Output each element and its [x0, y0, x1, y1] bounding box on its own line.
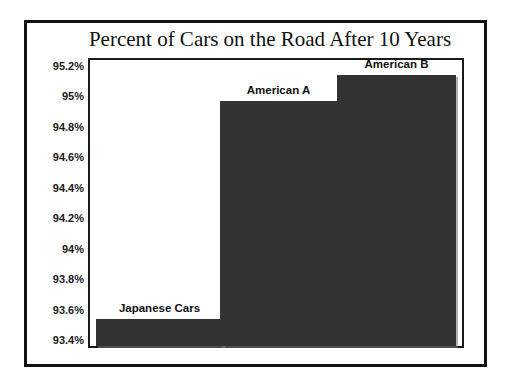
- y-axis-tick-label: 94%: [24, 243, 84, 255]
- bar-label-american-a: American A: [247, 84, 311, 96]
- bar-american-b[interactable]: [337, 75, 456, 346]
- y-axis-tick-label: 95%: [24, 90, 84, 102]
- chart-figure: Percent of Cars on the Road After 10 Yea…: [0, 0, 510, 380]
- bar-label-american-b: American B: [365, 58, 429, 70]
- y-axis-tick-label: 95.2%: [24, 60, 84, 72]
- y-axis-tick-label: 93.4%: [24, 334, 84, 346]
- chart-title: Percent of Cars on the Road After 10 Yea…: [60, 24, 480, 54]
- y-axis-tick-label: 93.8%: [24, 273, 84, 285]
- bar-label-japanese-cars: Japanese Cars: [119, 302, 200, 314]
- y-axis-tick-label: 94.6%: [24, 151, 84, 163]
- y-axis: 95.2%95%94.8%94.6%94.4%94.2%94%93.8%93.6…: [22, 58, 84, 348]
- bar-japanese-cars[interactable]: [96, 319, 223, 346]
- y-axis-tick-label: 94.4%: [24, 182, 84, 194]
- y-axis-tick-label: 93.6%: [24, 304, 84, 316]
- y-axis-tick-label: 94.8%: [24, 121, 84, 133]
- bars-layer: Japanese CarsAmerican AAmerican B: [88, 58, 464, 348]
- bar-american-a[interactable]: [220, 101, 337, 346]
- y-axis-tick-label: 94.2%: [24, 212, 84, 224]
